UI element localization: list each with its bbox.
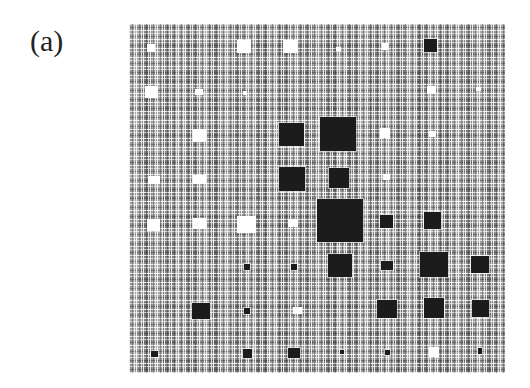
dark-square bbox=[420, 252, 448, 277]
dark-square bbox=[381, 261, 393, 270]
dark-square bbox=[424, 298, 444, 318]
panel-label: (a) bbox=[30, 26, 63, 56]
light-square bbox=[283, 40, 297, 53]
light-square bbox=[193, 129, 206, 142]
dark-square bbox=[471, 256, 489, 273]
dark-square bbox=[424, 212, 441, 229]
dark-square bbox=[279, 123, 304, 146]
dark-square bbox=[243, 349, 252, 358]
light-square bbox=[145, 86, 158, 98]
light-square bbox=[293, 307, 302, 314]
light-square bbox=[195, 89, 203, 95]
light-square bbox=[382, 43, 388, 50]
light-square bbox=[148, 176, 160, 184]
dark-square bbox=[244, 264, 250, 270]
dark-square bbox=[279, 167, 305, 191]
dark-square bbox=[151, 351, 158, 357]
light-square bbox=[427, 86, 436, 94]
dark-square bbox=[472, 300, 489, 317]
light-square bbox=[383, 174, 390, 180]
light-square bbox=[380, 128, 390, 138]
dark-square bbox=[340, 350, 344, 354]
light-square bbox=[243, 91, 247, 95]
dark-square bbox=[380, 215, 393, 228]
light-square bbox=[429, 347, 439, 357]
light-square bbox=[476, 87, 481, 91]
dark-square bbox=[377, 300, 397, 318]
dark-square bbox=[244, 308, 250, 314]
dark-square bbox=[329, 168, 349, 188]
light-square bbox=[237, 216, 256, 233]
light-square bbox=[147, 219, 160, 231]
light-square bbox=[429, 131, 436, 137]
light-square bbox=[237, 40, 251, 53]
light-square bbox=[336, 47, 341, 51]
dark-square bbox=[385, 350, 390, 355]
light-square bbox=[193, 218, 206, 229]
dark-square bbox=[317, 199, 363, 242]
light-square bbox=[288, 219, 298, 227]
dark-square bbox=[192, 303, 210, 319]
dark-square bbox=[478, 348, 482, 354]
dark-square bbox=[320, 117, 356, 151]
dark-square bbox=[328, 254, 352, 277]
light-square bbox=[193, 175, 206, 184]
light-square bbox=[147, 44, 155, 52]
dark-square bbox=[288, 348, 300, 358]
dark-square bbox=[424, 39, 437, 52]
dark-square bbox=[291, 264, 297, 270]
